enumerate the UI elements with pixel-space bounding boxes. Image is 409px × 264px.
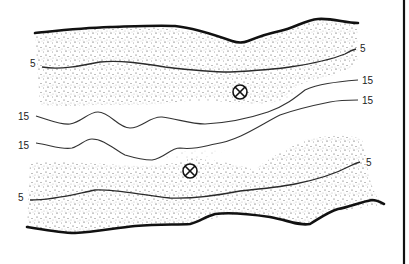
bottom-5-label-left: 5 [18, 192, 24, 203]
circle-x-marker-icon [233, 85, 247, 99]
lower-15-label-right: 15 [362, 95, 374, 106]
circle-x-marker-icon [183, 164, 197, 178]
top-5-label-left: 5 [30, 58, 36, 69]
top-bank-stipple [35, 19, 358, 106]
upper-15-label-right: 15 [362, 75, 374, 86]
light-stipple-patch-lower [165, 149, 225, 160]
top-5-label-right: 5 [360, 43, 366, 54]
channel-contour-diagram: 5 5 15 15 15 15 5 5 [0, 0, 409, 264]
upper-15-label-left: 15 [18, 111, 30, 122]
bottom-5-label-right: 5 [366, 157, 372, 168]
lower-15-label-left: 15 [18, 140, 30, 151]
